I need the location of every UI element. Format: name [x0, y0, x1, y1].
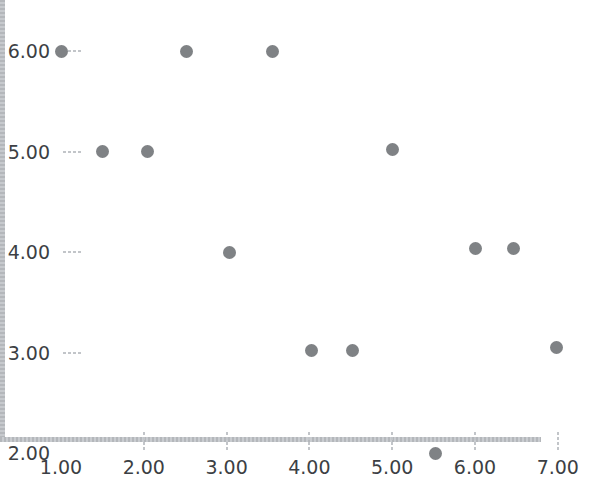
x-axis-tick-label: 1.00	[26, 458, 96, 477]
y-axis-tick-label: 3.00	[0, 344, 50, 363]
scatter-point	[386, 143, 399, 156]
scatter-point	[141, 145, 154, 158]
y-axis-tick	[63, 251, 81, 253]
x-axis-tick-label: 5.00	[357, 458, 427, 477]
scatter-point	[180, 45, 193, 58]
y-axis-tick	[63, 352, 81, 354]
x-axis-tick-label: 3.00	[192, 458, 262, 477]
scatter-chart: 2.003.004.005.006.00 1.002.003.004.005.0…	[0, 0, 602, 497]
y-axis-tick-label: 4.00	[0, 243, 50, 262]
x-axis-tick-label: 4.00	[274, 458, 344, 477]
scatter-point	[96, 145, 109, 158]
scatter-point	[223, 246, 236, 259]
y-axis-tick-label: 6.00	[0, 42, 50, 61]
scatter-point	[550, 341, 563, 354]
y-axis-tick	[63, 151, 81, 153]
scatter-point	[507, 242, 520, 255]
y-axis-line	[0, 0, 5, 437]
x-axis-tick	[557, 432, 559, 451]
scatter-point	[266, 45, 279, 58]
scatter-point	[305, 344, 318, 357]
x-axis-tick	[474, 432, 476, 451]
x-axis-tick	[143, 432, 145, 451]
scatter-point	[55, 45, 68, 58]
x-axis-tick-label: 2.00	[109, 458, 179, 477]
x-axis-tick	[308, 432, 310, 451]
x-axis-tick	[226, 432, 228, 451]
x-axis-tick	[391, 432, 393, 451]
scatter-point	[469, 242, 482, 255]
scatter-point	[346, 344, 359, 357]
y-axis-tick-label: 5.00	[0, 143, 50, 162]
scatter-point	[429, 447, 442, 460]
x-axis-tick-label: 6.00	[440, 458, 510, 477]
x-axis-tick-label: 7.00	[523, 458, 593, 477]
x-axis-line	[0, 437, 541, 442]
